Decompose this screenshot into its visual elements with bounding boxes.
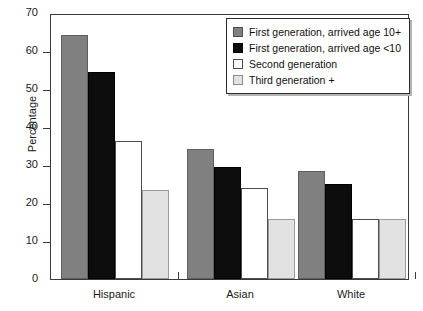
legend-swatch-icon [233, 43, 243, 53]
legend-item: Third generation + [233, 72, 401, 88]
y-axis-tick: 70 [0, 14, 50, 15]
legend-swatch-icon [233, 27, 243, 37]
bar [241, 188, 268, 279]
x-axis-tick-mark [415, 272, 416, 279]
legend-item: Second generation [233, 56, 401, 72]
x-axis-category-label: White [337, 288, 365, 300]
y-axis-tick: 40 [0, 128, 50, 129]
bar [352, 219, 379, 279]
legend-swatch-icon [233, 75, 243, 85]
bar [268, 219, 295, 279]
legend-item-label: Third generation + [249, 74, 335, 86]
y-axis-tick: 60 [0, 52, 50, 53]
bar [187, 149, 214, 279]
bar [88, 72, 115, 279]
bar [298, 171, 325, 279]
bar [61, 35, 88, 279]
bar-chart: Percentage HispanicAsianWhite First gene… [0, 0, 423, 311]
y-axis-tick-label: 0 [32, 272, 38, 284]
y-axis-tick-mark [43, 90, 50, 91]
x-axis-tick-mark [178, 272, 179, 279]
x-axis-category-label: Asian [226, 288, 254, 300]
y-axis-tick-label: 30 [26, 158, 38, 170]
y-axis-tick-label: 60 [26, 44, 38, 56]
y-axis-tick-label: 70 [26, 6, 38, 18]
y-axis-tick-mark [43, 242, 50, 243]
y-axis-tick-mark [43, 204, 50, 205]
y-axis-tick: 20 [0, 204, 50, 205]
bar [325, 184, 352, 279]
x-axis-category-label: Hispanic [93, 288, 135, 300]
y-axis-tick-mark [43, 128, 50, 129]
legend-item: First generation, arrived age 10+ [233, 24, 401, 40]
bar [115, 141, 142, 279]
legend-swatch-icon [233, 59, 243, 69]
bar [214, 167, 241, 279]
y-axis-tick-label: 10 [26, 234, 38, 246]
y-axis-tick-mark [43, 166, 50, 167]
y-axis-tick: 30 [0, 166, 50, 167]
y-axis-tick: 10 [0, 242, 50, 243]
legend-item-label: Second generation [249, 58, 337, 70]
legend-item: First generation, arrived age <10 [233, 40, 401, 56]
y-axis-tick-label: 50 [26, 82, 38, 94]
legend-item-label: First generation, arrived age 10+ [249, 26, 401, 38]
y-axis-tick-label: 40 [26, 120, 38, 132]
y-axis-tick-label: 20 [26, 196, 38, 208]
y-axis-tick: 0 [0, 280, 50, 281]
y-axis-tick-mark [43, 52, 50, 53]
bar [142, 190, 169, 279]
legend: First generation, arrived age 10+First g… [226, 18, 410, 94]
bar [379, 219, 406, 279]
legend-item-label: First generation, arrived age <10 [249, 42, 401, 54]
y-axis-tick: 50 [0, 90, 50, 91]
